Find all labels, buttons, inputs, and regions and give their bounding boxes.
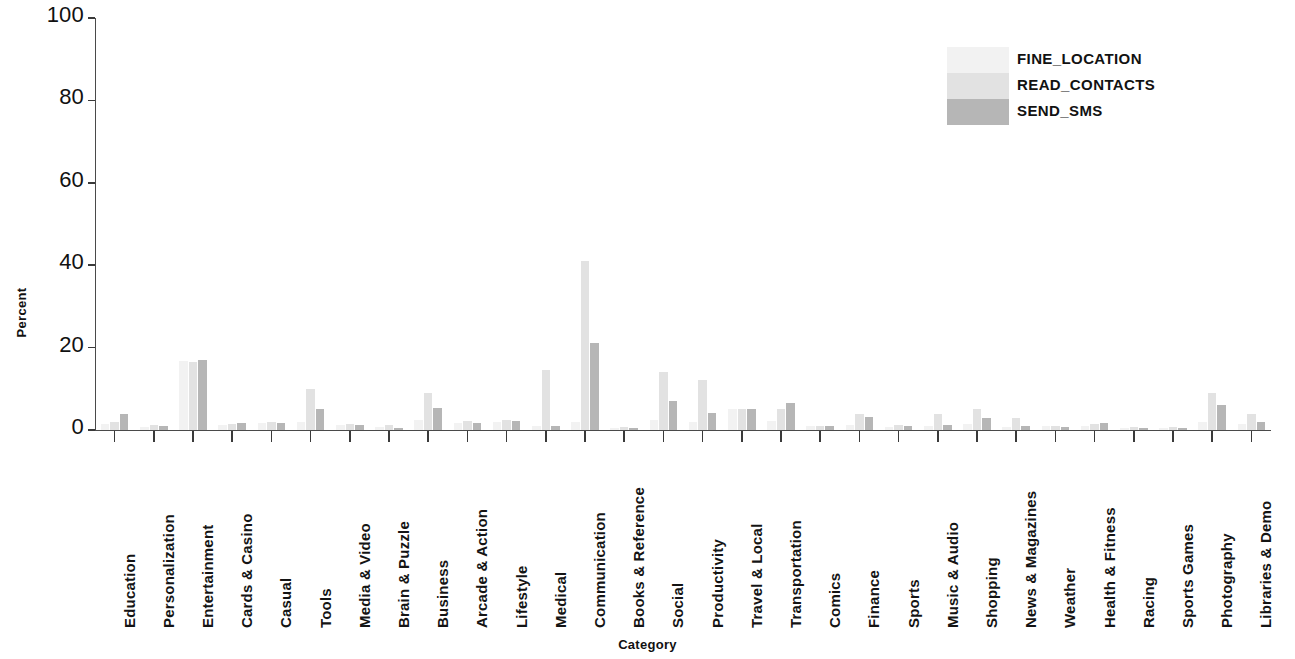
x-axis-tick (1211, 431, 1213, 442)
bar (973, 409, 982, 430)
bar (493, 422, 502, 430)
y-axis-tick (88, 264, 95, 266)
bar (885, 427, 894, 430)
bar (1208, 393, 1217, 430)
bar (855, 414, 864, 430)
bar (1247, 414, 1256, 430)
bar (1238, 424, 1247, 430)
bar (1217, 405, 1226, 430)
bar (620, 427, 629, 430)
bar (669, 401, 678, 430)
x-axis-tick (506, 431, 508, 442)
bar (473, 423, 482, 430)
x-axis-tick-label: Arcade & Action (473, 509, 490, 628)
bar (629, 428, 638, 430)
bar (708, 413, 717, 430)
bar (159, 426, 168, 430)
bar-group (767, 18, 795, 430)
x-axis-tick (859, 431, 861, 442)
bar-group (493, 18, 521, 430)
bar-group (258, 18, 286, 430)
bar (934, 414, 943, 430)
x-axis-tick (741, 431, 743, 442)
bar (650, 420, 659, 430)
x-axis-tick-label: Media & Video (356, 523, 373, 628)
x-axis-tick-label: Education (121, 554, 138, 628)
bar-group (1159, 18, 1187, 430)
bar-group (297, 18, 325, 430)
x-axis-tick (1094, 431, 1096, 442)
bar-group (101, 18, 129, 430)
bar (502, 420, 511, 430)
bar-group (806, 18, 834, 430)
bar (1198, 422, 1207, 430)
bar (894, 425, 903, 430)
bar-group (454, 18, 482, 430)
x-axis-tick-label: Brain & Puzzle (395, 521, 412, 628)
bar (806, 426, 815, 430)
y-axis-tick (88, 182, 95, 184)
legend-label-send-sms: SEND_SMS (1017, 102, 1103, 119)
bar (228, 424, 237, 430)
legend-swatches (947, 47, 1009, 125)
x-axis-tick (427, 431, 429, 442)
x-axis-tick (1055, 431, 1057, 442)
x-axis-tick-label: Sports Games (1179, 524, 1196, 628)
bar (551, 426, 560, 430)
x-axis-tick (584, 431, 586, 442)
bar (385, 425, 394, 430)
bar-chart: 020406080100 Percent EducationPersonaliz… (0, 0, 1295, 659)
x-axis-tick (545, 431, 547, 442)
x-axis-tick (976, 431, 978, 442)
x-axis-tick (780, 431, 782, 442)
bar (698, 380, 707, 430)
x-axis-tick-label: Personalization (160, 514, 177, 628)
bar (943, 425, 952, 430)
bar (689, 422, 698, 430)
bar (346, 424, 355, 430)
bar (189, 362, 198, 430)
bar (1169, 427, 1178, 430)
bar (777, 409, 786, 430)
bar (982, 418, 991, 430)
bar (590, 343, 599, 430)
bar (1012, 418, 1021, 430)
bar (140, 427, 149, 430)
bar (424, 393, 433, 430)
bar (150, 425, 159, 430)
x-axis-tick (231, 431, 233, 442)
bar (1002, 427, 1011, 430)
bar (747, 409, 756, 430)
x-axis-tick-label: Medical (552, 572, 569, 628)
x-axis-tick-label: Health & Fitness (1101, 507, 1118, 628)
bar (581, 261, 590, 430)
bar (1120, 428, 1129, 430)
bar-group (532, 18, 560, 430)
x-axis-tick (623, 431, 625, 442)
bar (297, 422, 306, 430)
bar (198, 360, 207, 430)
bar (120, 414, 129, 430)
y-axis-tick (88, 429, 95, 431)
bar-group (885, 18, 913, 430)
bar (277, 423, 286, 430)
y-axis-tick-label: 20 (32, 332, 84, 358)
bar (316, 409, 325, 430)
x-axis-tick (1015, 431, 1017, 442)
bar (1081, 426, 1090, 430)
x-axis-tick-label: Casual (277, 578, 294, 628)
bar (258, 423, 267, 430)
legend-label-read-contacts: READ_CONTACTS (1017, 76, 1155, 93)
bar (433, 408, 442, 430)
bar (865, 417, 874, 430)
x-axis-tick-label: Cards & Casino (238, 514, 255, 629)
bar (738, 409, 747, 430)
bar (532, 426, 541, 430)
bar (924, 426, 933, 430)
x-axis-tick-label: Photography (1218, 533, 1235, 628)
bar-group (218, 18, 246, 430)
x-axis-tick (702, 431, 704, 442)
y-axis-tick-label: 80 (32, 84, 84, 110)
x-axis-tick (271, 431, 273, 442)
x-axis-tick (819, 431, 821, 442)
